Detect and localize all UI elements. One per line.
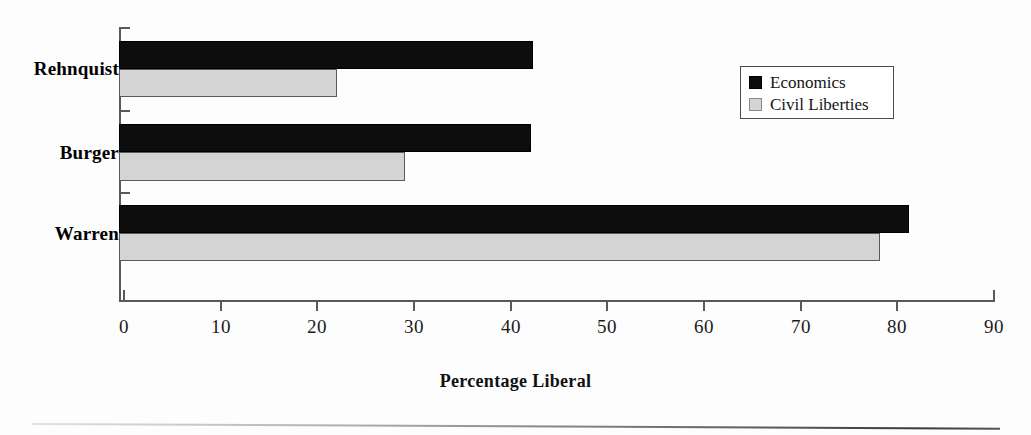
bar-warren-civil-liberties — [119, 233, 880, 261]
x-tick-label-0: 0 — [94, 316, 154, 338]
y-axis-tick-top — [119, 27, 130, 29]
x-tick-label-20: 20 — [287, 316, 347, 338]
x-tick-label-50: 50 — [577, 316, 637, 338]
x-tick-label-90: 90 — [964, 316, 1024, 338]
x-tick-label-60: 60 — [674, 316, 734, 338]
black-square-swatch-icon — [749, 76, 762, 89]
x-axis-tick-80 — [896, 300, 898, 311]
x-tick-label-40: 40 — [481, 316, 541, 338]
x-axis-tick-30 — [413, 300, 415, 311]
legend-label-civil-liberties: Civil Liberties — [770, 95, 869, 114]
y-axis-tick-1 — [119, 110, 130, 112]
bar-rehnquist-civil-liberties — [119, 69, 337, 97]
bar-rehnquist-economics — [119, 41, 533, 69]
category-label-warren: Warren — [7, 223, 119, 245]
bar-warren-economics — [119, 205, 909, 233]
x-axis-tick-20 — [316, 300, 318, 311]
x-axis-title: Percentage Liberal — [0, 371, 1031, 392]
x-axis-tick-40 — [510, 300, 512, 311]
chart-legend: Economics Civil Liberties — [740, 66, 894, 119]
x-axis-tick-60 — [703, 300, 705, 311]
x-axis-line — [119, 300, 995, 302]
gray-square-swatch-icon — [749, 98, 762, 111]
bar-chart-figure: 0 10 20 30 40 50 60 70 80 90 Rehnquist B… — [0, 0, 1031, 435]
category-label-burger: Burger — [7, 142, 119, 164]
x-axis-tick-10 — [220, 300, 222, 311]
bar-burger-civil-liberties — [119, 152, 405, 181]
x-tick-label-70: 70 — [771, 316, 831, 338]
x-axis-tick-70 — [800, 300, 802, 311]
x-axis-tick-50 — [606, 300, 608, 311]
legend-label-economics: Economics — [770, 73, 846, 92]
y-axis-tick-2 — [119, 192, 130, 194]
legend-item-civil-liberties: Civil Liberties — [749, 93, 887, 115]
category-label-rehnquist-wrap: Rehnquist — [0, 58, 119, 78]
page-divider-rule — [32, 423, 1000, 430]
bar-burger-economics — [119, 124, 531, 152]
category-label-burger-wrap: Burger — [0, 142, 119, 162]
legend-item-economics: Economics — [749, 71, 887, 93]
x-axis-tick-90 — [993, 290, 995, 302]
x-tick-label-10: 10 — [191, 316, 251, 338]
category-label-warren-wrap: Warren — [0, 223, 119, 243]
x-tick-label-80: 80 — [867, 316, 927, 338]
category-label-rehnquist: Rehnquist — [7, 58, 119, 80]
x-axis-tick-0 — [123, 290, 125, 302]
x-tick-label-30: 30 — [384, 316, 444, 338]
